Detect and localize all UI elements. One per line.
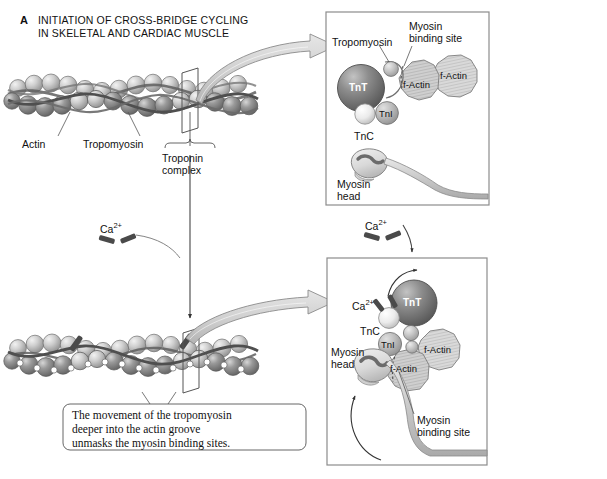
caption-line3: unmasks the myosin binding sites. [72,436,230,451]
panel-top-label-tnc: TnC [354,130,374,143]
caption-line2: deeper into the actin groove [72,422,200,437]
figure-title-line2: IN SKELETAL AND CARDIAC MUSCLE [38,27,229,40]
caption-line1: The movement of the tropomyosin [72,408,232,423]
label-calcium-middle: Ca2+ [365,217,387,232]
label-tropomyosin: Tropomyosin [83,138,143,151]
panel-bottom-label-myosin-head-line2: head [331,358,354,371]
panel-bottom-label-binding-site-line1: Myosin [417,414,450,427]
figure-canvas: A INITIATION OF CROSS-BRIDGE CYCLING IN … [0,0,607,479]
calcium-flow-arrow-left [136,155,190,318]
panel-bottom-calcium-charge: 2+ [365,298,374,307]
label-calcium-left: Ca2+ [100,220,122,235]
panel-top-label-factin-outer: f-Actin [440,70,467,83]
label-actin: Actin [22,138,45,151]
panel-bottom-label-binding-site-line2: binding site [417,426,470,439]
calcium-flow-arrow-panel [403,225,412,252]
panel-top-label-factin-inner: f-Actin [403,79,430,92]
panel-top-label-myosin-head-line2: head [337,190,360,203]
panel-bottom-label-factin-outer: f-Actin [424,344,451,357]
panel-bottom-label-factin-inner: f-Actin [390,363,417,376]
panel-top-label-tni: TnI [379,108,393,121]
tropomyosin-bead-top [384,62,399,77]
tropomyosin-bead-bottom [403,325,418,340]
troponin-brace [165,112,215,148]
tnc-sphere-top [355,104,375,124]
calcium-symbol-left: Ca [100,223,113,235]
panel-top-label-myosin-head-line1: Myosin [337,178,370,191]
panel-top-label-tropomyosin: Tropomyosin [332,36,392,49]
expand-arrow-bottom [186,290,334,344]
panel-letter: A [20,14,28,27]
panel-bottom-label-calcium: Ca2+ [352,297,374,312]
panel-bottom-label-tni: TnI [381,339,395,352]
actin-filament-activated [4,334,259,376]
panel-bottom-label-myosin-head-line1: Myosin [331,346,364,359]
tropomyosin-bead-bottom-2 [406,341,418,353]
panel-bottom-calcium-symbol: Ca [352,300,365,312]
panel-top-label-binding-site-line1: Myosin [409,20,442,33]
label-troponin-complex-line1: Troponin [162,152,203,165]
panel-bottom-label-tnc: TnC [360,325,380,338]
figure-title-line1: INITIATION OF CROSS-BRIDGE CYCLING [38,14,248,27]
calcium-charge-middle: 2+ [378,218,387,227]
calcium-charge-left: 2+ [113,221,122,230]
panel-bottom-label-tnt: TnT [403,297,421,310]
panel-top-label-tnt: TnT [349,82,367,95]
calcium-symbol-middle: Ca [365,220,378,232]
filament-leader-lines [58,112,140,136]
panel-top-label-binding-site-line2: binding site [409,32,462,45]
label-troponin-complex-line2: complex [162,164,201,177]
